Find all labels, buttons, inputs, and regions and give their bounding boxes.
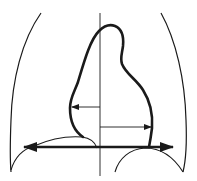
diagram-svg [0, 0, 197, 181]
left-hemidiaphragm [11, 137, 97, 170]
cardiothoracic-diagram [0, 0, 197, 181]
heart-silhouette [70, 25, 152, 147]
right-hemidiaphragm [115, 148, 183, 172]
